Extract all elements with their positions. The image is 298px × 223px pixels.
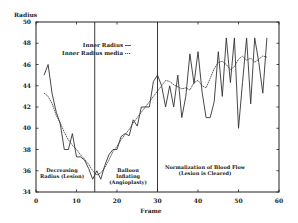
y-tick-label: 46 bbox=[23, 61, 31, 68]
y-tick-label: 40 bbox=[23, 124, 31, 131]
x-tick-label: 50 bbox=[234, 197, 242, 204]
series-lines bbox=[44, 38, 267, 179]
annotation-decreasing: Decreasing Radius (Lesion) bbox=[40, 167, 84, 179]
y-tick-label: 38 bbox=[23, 146, 31, 153]
annotation-balloon: Balloon Inflating (Angioplasty) bbox=[109, 167, 147, 186]
y-axis-title: Radius bbox=[14, 11, 38, 18]
legend-label-inner-radius-media: Inner Radius media bbox=[62, 50, 123, 56]
x-tick-label: 30 bbox=[153, 197, 161, 204]
annotation-text: (Angioplasty) bbox=[109, 179, 147, 186]
x-tick-label: 40 bbox=[194, 197, 202, 204]
y-tick-label: 34 bbox=[23, 188, 31, 195]
radius-chart: 3436384042444648500102030405060 Radius F… bbox=[0, 0, 298, 223]
x-tick-label: 10 bbox=[72, 197, 80, 204]
y-tick-label: 44 bbox=[23, 82, 31, 89]
x-tick-label: 60 bbox=[275, 197, 283, 204]
y-tick-label: 50 bbox=[23, 18, 31, 25]
x-tick-label: 0 bbox=[34, 197, 38, 204]
x-tick-label: 20 bbox=[113, 197, 121, 204]
legend-label-inner-radius: Inner Radius bbox=[83, 42, 123, 48]
legend: Inner Radius Inner Radius media bbox=[62, 42, 131, 56]
y-tick-label: 36 bbox=[23, 167, 31, 174]
annotation-text: Radius (Lesion) bbox=[40, 173, 84, 179]
annotation-normalization: Normalization of Blood Flow (Lesion is C… bbox=[165, 164, 246, 176]
x-axis-title: Frame bbox=[140, 207, 162, 214]
annotation-text: (Lesion is Cleared) bbox=[179, 170, 232, 176]
series-inner-radius bbox=[44, 38, 267, 179]
y-tick-label: 48 bbox=[23, 39, 31, 46]
y-tick-label: 42 bbox=[23, 103, 31, 110]
